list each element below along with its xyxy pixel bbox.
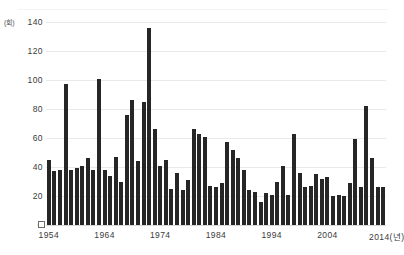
bar bbox=[108, 176, 112, 225]
bar bbox=[303, 187, 307, 225]
bar bbox=[286, 195, 290, 225]
bar-series bbox=[46, 22, 386, 225]
bar bbox=[147, 28, 151, 225]
bar bbox=[364, 106, 368, 225]
bar bbox=[136, 161, 140, 225]
bar bbox=[52, 171, 56, 225]
bar bbox=[192, 129, 196, 225]
bar bbox=[175, 173, 179, 225]
bar bbox=[186, 180, 190, 225]
bar bbox=[103, 170, 107, 225]
bar bbox=[58, 170, 62, 225]
y-tick-label-80: 80 bbox=[1, 104, 43, 114]
bar bbox=[381, 187, 385, 225]
gridline-0 bbox=[46, 225, 386, 226]
y-tick-label-60: 60 bbox=[1, 133, 43, 143]
bar bbox=[220, 183, 224, 225]
bar bbox=[181, 190, 185, 225]
bar bbox=[231, 150, 235, 225]
bar bbox=[298, 173, 302, 225]
bar bbox=[325, 177, 329, 225]
bar bbox=[69, 170, 73, 225]
bar bbox=[197, 134, 201, 225]
bar bbox=[80, 166, 84, 225]
bar bbox=[242, 170, 246, 225]
y-tick-label-140: 140 bbox=[1, 17, 43, 27]
bar bbox=[275, 182, 279, 226]
y-axis-tick-labels: 020406080100120140 bbox=[0, 0, 43, 255]
bar bbox=[359, 187, 363, 225]
y-tick-label-120: 120 bbox=[1, 46, 43, 56]
bar bbox=[342, 196, 346, 225]
bar bbox=[225, 142, 229, 225]
bar bbox=[142, 102, 146, 225]
bar bbox=[331, 196, 335, 225]
bar bbox=[376, 187, 380, 225]
bar bbox=[64, 84, 68, 225]
bar bbox=[97, 79, 101, 225]
y-tick-label-0: 0 bbox=[1, 220, 43, 230]
x-tick-label-2004: 2004 bbox=[317, 230, 338, 240]
bar bbox=[337, 195, 341, 225]
bar bbox=[270, 195, 274, 225]
plot-area bbox=[46, 22, 386, 225]
bar bbox=[86, 158, 90, 225]
bar bbox=[47, 160, 51, 225]
x-tick-label-1994: 1994 bbox=[261, 230, 282, 240]
bar bbox=[153, 129, 157, 225]
bar bbox=[292, 134, 296, 225]
bar bbox=[203, 137, 207, 225]
bar bbox=[158, 166, 162, 225]
bar bbox=[281, 166, 285, 225]
bar bbox=[130, 100, 134, 225]
bar bbox=[114, 157, 118, 225]
bar bbox=[314, 174, 318, 225]
bar bbox=[353, 139, 357, 225]
bar bbox=[214, 187, 218, 225]
x-tick-label-1954: 1954 bbox=[39, 230, 60, 240]
bar bbox=[91, 170, 95, 225]
bar bbox=[264, 193, 268, 225]
bar bbox=[370, 158, 374, 225]
bar bbox=[236, 158, 240, 225]
bar bbox=[164, 160, 168, 225]
bar bbox=[119, 182, 123, 226]
origin-marker bbox=[38, 221, 45, 228]
bar bbox=[247, 190, 251, 225]
bar bbox=[75, 168, 79, 225]
y-tick-label-100: 100 bbox=[1, 75, 43, 85]
x-axis-tick-labels: 1954196419741984199420042014(년) bbox=[46, 230, 386, 248]
bar bbox=[259, 202, 263, 225]
x-tick-label-1984: 1984 bbox=[206, 230, 227, 240]
y-tick-label-40: 40 bbox=[1, 162, 43, 172]
bar bbox=[320, 179, 324, 225]
bar bbox=[309, 186, 313, 225]
bar bbox=[348, 183, 352, 225]
x-tick-label-1974: 1974 bbox=[150, 230, 171, 240]
x-tick-label-2014: 2014(년) bbox=[369, 230, 404, 242]
bar bbox=[169, 189, 173, 225]
bar bbox=[208, 186, 212, 225]
y-tick-label-20: 20 bbox=[1, 191, 43, 201]
bar bbox=[253, 192, 257, 225]
bar bbox=[125, 115, 129, 225]
x-tick-label-1964: 1964 bbox=[94, 230, 115, 240]
